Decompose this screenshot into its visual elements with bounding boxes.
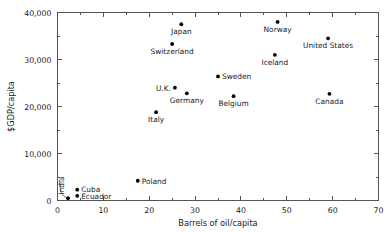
data-point-marker [232,94,236,98]
data-point-marker [328,92,332,96]
x-tick-label: 50 [282,206,292,215]
data-point-label: Ecuador [81,192,112,201]
data-point-marker [75,188,79,192]
data-point-group: Sweden [216,72,251,81]
y-tick-label: 40,000 [24,9,51,18]
y-tick-label: 0 [47,197,52,206]
data-point-marker [154,110,158,114]
data-point-label: Sweden [222,72,252,81]
x-tick-label: 70 [374,206,384,215]
data-point-label: India [57,177,66,195]
data-point-label: Norway [264,25,293,34]
data-point-group: Norway [264,20,293,34]
data-point-group: Iceland [261,53,288,67]
x-axis-title: Barrels of oil/capita [178,218,257,228]
data-point-marker [216,75,220,79]
data-point-marker [179,22,183,26]
chart-canvas: 010203040506070010,00020,00030,00040,000… [0,0,392,232]
x-tick-label: 10 [98,206,108,215]
data-point-marker [75,194,79,198]
x-tick-label: 30 [190,206,200,215]
data-point-group: Japan [170,22,192,36]
scatter-chart: 010203040506070010,00020,00030,00040,000… [0,0,392,232]
data-point-marker [66,196,70,200]
data-point-group: Poland [136,177,167,186]
x-tick-label: 60 [328,206,338,215]
x-tick-label: 20 [144,206,154,215]
data-point-marker [273,53,277,57]
data-point-label: Switzerland [151,47,194,56]
data-point-marker [170,42,174,46]
y-tick-label: 20,000 [24,103,51,112]
y-axis-title: $GDP/capita [6,81,16,132]
data-point-group: Belgium [218,94,248,108]
data-point-group: Germany [170,91,205,105]
data-point-marker [276,20,280,24]
data-point-group: India [57,177,70,201]
x-tick-label: 0 [55,206,60,215]
data-point-group: Ecuador [75,192,112,201]
data-point-group: Canada [315,92,343,106]
data-point-label: Japan [170,27,192,36]
data-point-label: United States [303,41,353,50]
data-point-marker [173,86,177,90]
data-point-label: Canada [315,97,343,106]
data-point-marker [136,179,140,183]
data-point-label: Poland [142,177,167,186]
data-point-marker [185,91,189,95]
data-point-label: Germany [170,96,205,105]
y-tick-label: 30,000 [24,56,51,65]
data-point-label: Belgium [218,99,248,108]
data-point-group: United States [303,36,353,50]
data-point-group: Italy [148,110,165,124]
x-tick-label: 40 [236,206,246,215]
data-point-label: Italy [148,115,165,124]
data-point-group: U.K. [156,84,177,93]
data-point-label: Iceland [261,58,288,67]
data-point-group: Switzerland [151,42,194,56]
data-point-marker [326,36,330,40]
y-tick-label: 10,000 [24,150,51,159]
data-point-label: U.K. [156,84,171,93]
